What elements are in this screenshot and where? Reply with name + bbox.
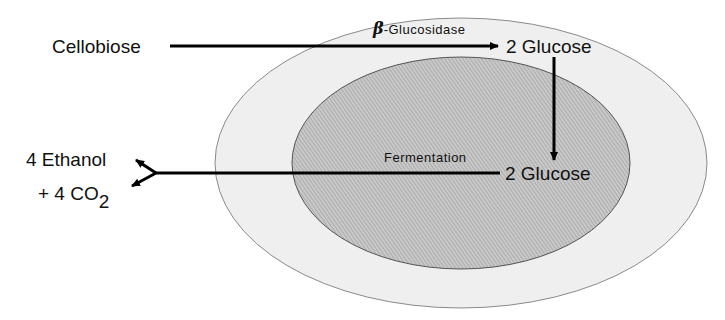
cellobiose-label: Cellobiose xyxy=(52,37,141,56)
fermentation-label: Fermentation xyxy=(384,151,467,164)
ethanol-arrow xyxy=(136,160,156,173)
co2-label: + 4 CO2 xyxy=(38,184,109,203)
enzyme-name: -Glucosidase xyxy=(384,22,466,37)
ethanol-label: 4 Ethanol xyxy=(26,150,106,169)
glucose-inner-label: 2 Glucose xyxy=(505,164,591,183)
glucose-outer-label: 2 Glucose xyxy=(506,37,592,56)
beta-symbol: β xyxy=(373,19,384,38)
co2-text: + 4 CO xyxy=(38,183,99,204)
co2-subscript: 2 xyxy=(99,191,110,212)
enzyme-label: β-Glucosidase xyxy=(373,21,466,37)
co2-arrow xyxy=(132,173,156,186)
